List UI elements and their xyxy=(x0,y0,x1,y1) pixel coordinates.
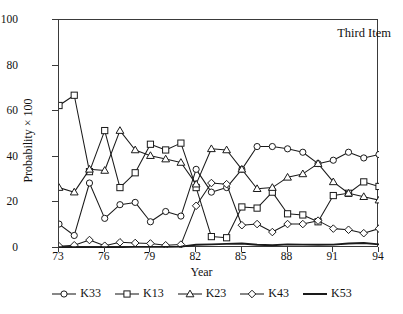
chart-legend: K33K13K23K43K53 xyxy=(0,286,403,301)
data-point-marker xyxy=(284,146,290,152)
legend-swatch-diamond-icon xyxy=(239,288,265,300)
data-point-marker xyxy=(163,147,169,153)
data-point-marker xyxy=(345,226,353,234)
y-tick-mark xyxy=(52,156,58,157)
legend-swatch-none-icon xyxy=(302,288,328,300)
data-point-marker xyxy=(59,221,62,227)
data-point-marker xyxy=(59,184,63,191)
data-point-marker xyxy=(102,127,108,133)
legend-item-k43[interactable]: K43 xyxy=(239,286,289,301)
data-point-marker xyxy=(300,212,306,218)
data-point-marker xyxy=(116,127,124,134)
legend-swatch-square-icon xyxy=(114,288,140,300)
x-axis-title: Year xyxy=(0,265,403,280)
legend-item-k13[interactable]: K13 xyxy=(114,286,164,301)
y-tick-mark xyxy=(52,110,58,111)
data-point-marker xyxy=(300,149,306,155)
data-point-marker xyxy=(71,92,77,98)
data-point-marker xyxy=(178,140,184,146)
legend-label: K43 xyxy=(268,286,289,301)
x-tick-label: 79 xyxy=(134,250,164,262)
data-point-marker xyxy=(239,204,245,210)
data-point-marker xyxy=(330,225,338,233)
data-point-marker xyxy=(86,236,94,244)
data-point-marker xyxy=(299,220,307,228)
y-tick-mark xyxy=(52,65,58,66)
data-point-marker xyxy=(86,180,92,186)
data-point-marker xyxy=(163,208,169,214)
data-point-marker xyxy=(376,151,379,157)
x-tick-label: 91 xyxy=(317,250,347,262)
legend-label: K23 xyxy=(206,286,227,301)
data-point-marker xyxy=(147,141,153,147)
chart-figure: Probability × 100 Year Third Item K33K13… xyxy=(0,0,403,314)
legend-item-k33[interactable]: K33 xyxy=(51,286,101,301)
x-tick-label: 82 xyxy=(180,250,210,262)
y-tick-label: 0 xyxy=(0,241,18,253)
data-point-marker xyxy=(208,179,216,187)
legend-item-k23[interactable]: K23 xyxy=(177,286,227,301)
x-tick-label: 88 xyxy=(272,250,302,262)
data-point-marker xyxy=(254,205,260,211)
data-point-marker xyxy=(193,166,199,172)
data-point-marker xyxy=(208,189,214,195)
x-tick-label: 76 xyxy=(89,250,119,262)
data-point-marker xyxy=(117,184,123,190)
legend-label: K33 xyxy=(80,286,101,301)
legend-swatch-circle-icon xyxy=(51,288,77,300)
data-point-marker xyxy=(208,145,216,152)
y-axis-title: Probability × 100 xyxy=(21,51,36,231)
y-tick-mark xyxy=(52,19,58,20)
y-tick-label: 60 xyxy=(0,104,18,116)
y-tick-label: 20 xyxy=(0,195,18,207)
data-point-marker xyxy=(254,143,260,149)
y-tick-mark xyxy=(52,201,58,202)
data-point-marker xyxy=(208,234,214,240)
series-K33 xyxy=(59,143,379,238)
data-point-marker xyxy=(132,170,138,176)
data-point-marker xyxy=(192,202,200,210)
data-point-marker xyxy=(376,183,379,189)
legend-swatch-triangle-icon xyxy=(177,288,203,300)
y-tick-label: 80 xyxy=(0,59,18,71)
data-point-marker xyxy=(345,149,351,155)
data-point-marker xyxy=(224,235,230,241)
data-point-marker xyxy=(102,215,108,221)
data-point-marker xyxy=(361,179,367,185)
data-point-marker xyxy=(268,184,276,191)
data-point-marker xyxy=(178,213,184,219)
data-point-marker xyxy=(131,239,139,247)
y-tick-label: 100 xyxy=(0,13,18,25)
x-tick-label: 94 xyxy=(363,250,393,262)
data-point-marker xyxy=(238,221,246,229)
panel-annotation-label: Third Item xyxy=(337,26,391,41)
data-point-marker xyxy=(299,170,307,177)
data-point-marker xyxy=(360,229,368,237)
plot-area xyxy=(58,19,378,247)
legend-label: K53 xyxy=(331,286,352,301)
data-point-marker xyxy=(375,225,379,233)
data-point-marker xyxy=(132,199,138,205)
data-point-marker xyxy=(147,219,153,225)
data-point-marker xyxy=(117,202,123,208)
data-point-marker xyxy=(284,220,292,228)
x-tick-label: 85 xyxy=(226,250,256,262)
legend-item-k53[interactable]: K53 xyxy=(302,286,352,301)
series-canvas xyxy=(59,20,379,248)
data-point-marker xyxy=(71,232,77,238)
data-point-marker xyxy=(330,157,336,163)
y-tick-label: 40 xyxy=(0,150,18,162)
data-point-marker xyxy=(361,155,367,161)
legend-label: K13 xyxy=(143,286,164,301)
data-point-marker xyxy=(284,211,290,217)
data-point-marker xyxy=(269,143,275,149)
data-point-marker xyxy=(330,192,336,198)
data-point-marker xyxy=(59,102,62,108)
data-point-marker xyxy=(116,239,124,247)
x-tick-label: 73 xyxy=(43,250,73,262)
data-point-marker xyxy=(269,228,277,236)
data-point-marker xyxy=(253,220,261,228)
